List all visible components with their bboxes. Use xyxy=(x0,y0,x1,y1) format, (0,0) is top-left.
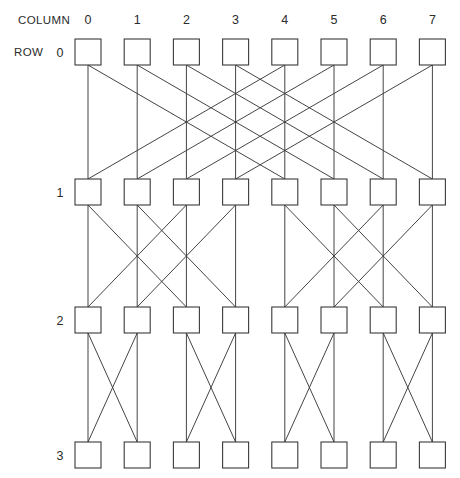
node-r1-c5[interactable] xyxy=(321,179,347,205)
column-label-2: 2 xyxy=(183,13,190,27)
node-r0-c3[interactable] xyxy=(223,39,249,65)
node-r0-c2[interactable] xyxy=(173,39,199,65)
column-label-7: 7 xyxy=(429,13,436,27)
node-r2-c7[interactable] xyxy=(419,307,445,333)
node-r0-c6[interactable] xyxy=(370,39,396,65)
column-label-4: 4 xyxy=(281,13,288,27)
node-r2-c0[interactable] xyxy=(75,307,101,333)
node-r2-c4[interactable] xyxy=(272,307,298,333)
column-axis-label: COLUMN xyxy=(18,14,70,26)
row-label-3: 3 xyxy=(57,449,64,463)
column-label-1: 1 xyxy=(134,13,141,27)
node-r3-c6[interactable] xyxy=(370,442,396,468)
node-r1-c0[interactable] xyxy=(75,179,101,205)
node-r1-c7[interactable] xyxy=(419,179,445,205)
node-r3-c3[interactable] xyxy=(223,442,249,468)
node-r1-c6[interactable] xyxy=(370,179,396,205)
edge-group-stage-1 xyxy=(88,205,432,307)
node-r1-c1[interactable] xyxy=(124,179,150,205)
node-r1-c3[interactable] xyxy=(223,179,249,205)
node-row-0 xyxy=(75,39,445,65)
row-label-2: 2 xyxy=(57,314,64,328)
node-r1-c2[interactable] xyxy=(173,179,199,205)
column-label-6: 6 xyxy=(380,13,387,27)
edge-group-stage-2 xyxy=(88,333,432,442)
node-r3-c7[interactable] xyxy=(419,442,445,468)
node-r3-c2[interactable] xyxy=(173,442,199,468)
row-label-0: 0 xyxy=(57,46,64,60)
node-r2-c3[interactable] xyxy=(223,307,249,333)
node-row-1 xyxy=(75,179,445,205)
node-r0-c5[interactable] xyxy=(321,39,347,65)
node-r0-c4[interactable] xyxy=(272,39,298,65)
node-r1-c4[interactable] xyxy=(272,179,298,205)
edges-layer xyxy=(88,65,432,442)
node-row-2 xyxy=(75,307,445,333)
node-r2-c5[interactable] xyxy=(321,307,347,333)
nodes-layer xyxy=(75,39,445,468)
node-r2-c2[interactable] xyxy=(173,307,199,333)
edge-group-stage-0 xyxy=(88,65,432,179)
node-row-3 xyxy=(75,442,445,468)
node-r3-c4[interactable] xyxy=(272,442,298,468)
column-label-3: 3 xyxy=(232,13,239,27)
row-label-1: 1 xyxy=(57,186,64,200)
node-r0-c1[interactable] xyxy=(124,39,150,65)
node-r2-c1[interactable] xyxy=(124,307,150,333)
node-r0-c0[interactable] xyxy=(75,39,101,65)
node-r3-c5[interactable] xyxy=(321,442,347,468)
network-svg: COLUMNROW012345670123 xyxy=(0,0,460,478)
node-r2-c6[interactable] xyxy=(370,307,396,333)
node-r0-c7[interactable] xyxy=(419,39,445,65)
column-label-5: 5 xyxy=(331,13,338,27)
node-r3-c1[interactable] xyxy=(124,442,150,468)
node-r3-c0[interactable] xyxy=(75,442,101,468)
column-label-0: 0 xyxy=(85,13,92,27)
row-axis-label: ROW xyxy=(14,46,43,58)
labels-layer: COLUMNROW012345670123 xyxy=(14,13,436,463)
butterfly-network-diagram: COLUMNROW012345670123 xyxy=(0,0,460,478)
